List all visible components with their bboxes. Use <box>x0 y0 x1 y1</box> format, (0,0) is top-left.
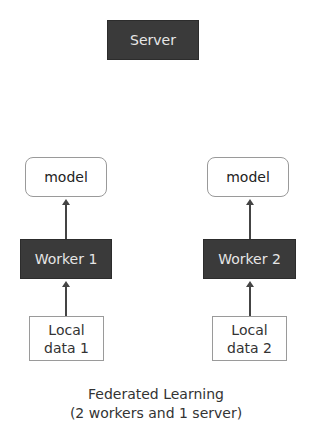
local-data-node-2: Local data 2 <box>212 316 287 361</box>
worker-label-2: Worker 2 <box>218 250 281 268</box>
arrow-up-icon <box>65 286 67 316</box>
local-data-label-2-line2: data 2 <box>227 339 272 357</box>
model-label-2: model <box>226 168 270 186</box>
worker-node-1: Worker 1 <box>20 239 112 279</box>
local-data-label-1-line1: Local <box>44 321 89 339</box>
worker-node-2: Worker 2 <box>203 239 296 279</box>
cropped-text-fragment <box>0 0 312 5</box>
worker-label-1: Worker 1 <box>35 250 98 268</box>
caption-subtitle: (2 workers and 1 server) <box>0 405 312 421</box>
server-node: Server <box>107 20 199 60</box>
local-data-label-1-line2: data 1 <box>44 339 89 357</box>
caption-title: Federated Learning <box>0 386 312 402</box>
model-node-1: model <box>25 157 107 197</box>
local-data-label-2-line1: Local <box>227 321 272 339</box>
local-data-node-1: Local data 1 <box>29 316 104 361</box>
arrow-up-icon <box>249 286 251 316</box>
model-label-1: model <box>44 168 88 186</box>
server-label: Server <box>130 31 176 49</box>
model-node-2: model <box>207 157 289 197</box>
arrow-up-icon <box>65 204 67 239</box>
arrow-up-icon <box>249 204 251 239</box>
